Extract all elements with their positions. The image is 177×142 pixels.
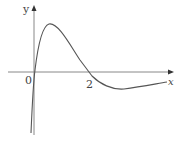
- x-axis-label: x: [168, 76, 174, 87]
- x-axis-arrow-icon: [168, 70, 174, 75]
- y-axis-arrow-icon: [32, 5, 37, 11]
- function-curve: [31, 24, 167, 133]
- y-axis-label: y: [22, 3, 30, 16]
- graph: y x 0 2: [0, 0, 177, 142]
- origin-label: 0: [25, 74, 32, 87]
- tick-label-2: 2: [86, 78, 93, 91]
